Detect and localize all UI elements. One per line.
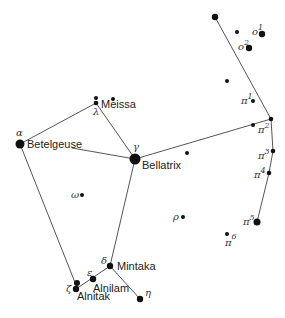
- line-pi2-pi3: [271, 119, 273, 151]
- label-zeta: ζ: [66, 283, 72, 294]
- line-meissa-bellatrix: [96, 103, 135, 159]
- star-bellatrix: [130, 154, 141, 165]
- label-epsilon: ε: [87, 267, 92, 278]
- label-alnitak: Alnitak: [77, 290, 111, 302]
- line-pi4-pi5: [257, 173, 269, 222]
- star-top: [212, 14, 218, 20]
- star-name-labels: Betelgeuse Bellatrix Meissa Mintaka Alni…: [27, 98, 182, 302]
- star-pi2-near: [251, 123, 255, 127]
- star-eta: [137, 296, 143, 302]
- star-chi: [235, 30, 239, 34]
- star-meissa-b: [94, 96, 98, 100]
- star-mintaka: [107, 263, 113, 269]
- line-betelgeuse-alnitak: [20, 144, 76, 285]
- line-bellatrix-pi2: [135, 119, 271, 159]
- label-delta: δ: [101, 255, 107, 266]
- star-unnamed-2: [185, 151, 189, 155]
- star-pi4: [267, 171, 272, 176]
- constellation-canvas: Betelgeuse Bellatrix Meissa Mintaka Alni…: [0, 0, 285, 318]
- label-pi3: π3: [257, 147, 270, 161]
- star-rho: [181, 215, 185, 219]
- label-betelgeuse: Betelgeuse: [27, 138, 82, 150]
- orion-diagram: Betelgeuse Bellatrix Meissa Mintaka Alni…: [0, 0, 285, 318]
- label-bellatrix: Bellatrix: [142, 159, 182, 171]
- label-eta: η: [145, 287, 151, 298]
- label-pi5: π5: [242, 213, 255, 227]
- star-meissa: [94, 101, 99, 106]
- label-rho: ρ: [172, 211, 179, 222]
- label-lambda: λ: [92, 106, 99, 117]
- label-mintaka: Mintaka: [117, 260, 156, 272]
- star-alnitak-b: [74, 280, 80, 286]
- star-betelgeuse: [16, 140, 25, 149]
- star-unnamed-1: [225, 79, 229, 83]
- star-pi3: [271, 149, 276, 154]
- star-omega: [80, 193, 84, 197]
- label-pi1: π1: [240, 92, 253, 106]
- label-gamma: γ: [133, 141, 139, 152]
- label-pi2: π2: [257, 121, 270, 135]
- label-alpha: α: [16, 127, 23, 138]
- label-omega: ω: [71, 189, 79, 200]
- label-pi4: π4: [253, 166, 266, 180]
- label-meissa: Meissa: [101, 98, 137, 110]
- star-pi6: [225, 232, 229, 236]
- constellation-lines: [20, 17, 273, 299]
- stars: [16, 14, 276, 302]
- line-bellatrix-mintaka: [110, 159, 135, 266]
